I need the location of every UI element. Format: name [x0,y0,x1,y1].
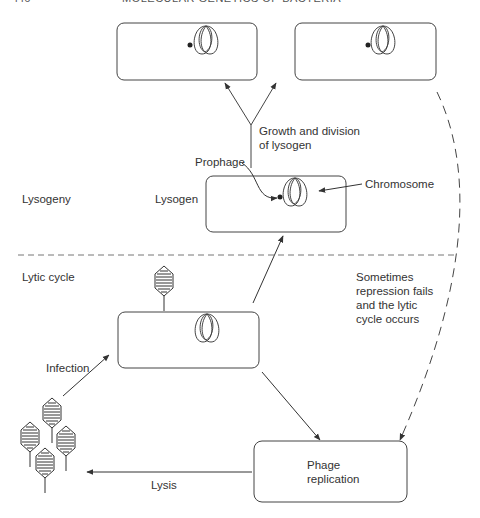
infected-cell [118,266,259,368]
lysogen-cell [206,176,346,232]
phage-replication-label-1: Phage [307,459,340,472]
lambda-life-cycle-diagram [0,0,480,518]
daughter-lysogen-cell-left [117,23,257,80]
repression-fails-arrow [400,92,460,440]
lysogeny-section-label: Lysogeny [22,193,71,206]
free-phages [21,398,75,493]
prophage-label: Prophage [195,156,245,169]
integration-arrow [253,236,283,303]
growth-label-1: Growth and division [259,125,360,138]
sometimes-label-2: repression fails [356,285,433,298]
daughter-lysogen-cell-right [295,23,436,80]
chromosome-icon [283,178,307,206]
sometimes-label-4: cycle occurs [356,313,419,326]
phage-replication-label-2: replication [307,473,359,486]
chromosome-icon [194,26,218,54]
sometimes-label-1: Sometimes [356,271,414,284]
lysis-label: Lysis [151,479,177,492]
lytic-cycle-section-label: Lytic cycle [22,271,75,284]
infection-label: Infection [46,362,89,375]
growth-label-2: of lysogen [259,139,311,152]
chromosome-icon [195,314,219,342]
lysogen-label: Lysogen [155,193,198,206]
prophage-dot-icon [188,43,193,48]
phage-icon [36,448,54,493]
attached-phage-icon [155,266,173,311]
chromosome-icon [371,26,395,54]
lytic-arrow [262,372,320,440]
sometimes-label-3: and the lytic [356,299,417,312]
prophage-dot-icon [366,43,371,48]
prophage-pointer-arrow [242,163,277,198]
chromosome-pointer-arrow [319,184,362,191]
prophage-dot-icon [278,195,283,200]
chromosome-label: Chromosome [365,178,434,191]
phage-icon [57,426,75,471]
